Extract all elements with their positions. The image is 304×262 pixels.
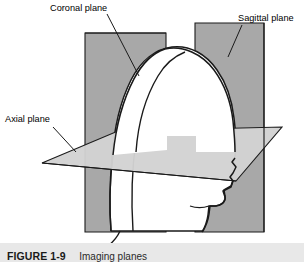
imaging-planes-diagram: Coronal plane Sagittal plane Axial plane <box>0 0 304 262</box>
coronal-plane-label: Coronal plane <box>50 3 107 13</box>
figure-caption-bar: FIGURE 1-9 Imaging planes <box>0 243 304 262</box>
figure-container: Coronal plane Sagittal plane Axial plane… <box>0 0 304 262</box>
axial-plane-label: Axial plane <box>5 114 50 124</box>
figure-caption: FIGURE 1-9 Imaging planes <box>7 247 147 262</box>
figure-caption-number: FIGURE 1-9 <box>7 250 66 262</box>
axial-leader-line <box>53 127 76 152</box>
figure-caption-description: Imaging planes <box>79 251 147 262</box>
sagittal-plane-label: Sagittal plane <box>238 13 294 23</box>
